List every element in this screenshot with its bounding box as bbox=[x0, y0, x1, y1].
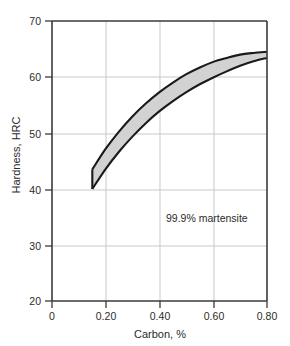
xtick-label-080: 0.80 bbox=[257, 310, 278, 322]
xtick-label-0: 0 bbox=[49, 310, 55, 322]
ytick-label-50: 50 bbox=[29, 128, 41, 140]
ytick-label-30: 30 bbox=[29, 240, 41, 252]
x-axis-title: Carbon, % bbox=[134, 328, 186, 340]
xtick-label-060: 0.60 bbox=[204, 310, 225, 322]
hardness-vs-carbon-chart: 70 60 50 40 30 20 0 0.20 0.40 0.60 0.80 … bbox=[0, 0, 290, 346]
martensite-annotation: 99.9% martensite bbox=[166, 212, 248, 224]
ytick-label-70: 70 bbox=[29, 15, 41, 27]
ytick-label-60: 60 bbox=[29, 71, 41, 83]
xtick-label-020: 0.20 bbox=[96, 310, 117, 322]
chart-svg: 70 60 50 40 30 20 0 0.20 0.40 0.60 0.80 … bbox=[0, 0, 290, 346]
ytick-label-40: 40 bbox=[29, 184, 41, 196]
ytick-label-20: 20 bbox=[29, 295, 41, 307]
xtick-label-040: 0.40 bbox=[150, 310, 171, 322]
y-axis-title: Hardness, HRC bbox=[10, 116, 22, 193]
